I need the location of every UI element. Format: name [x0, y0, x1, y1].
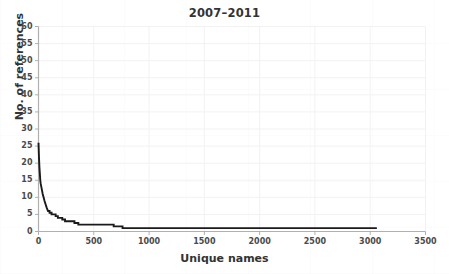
- y-tick-label: 0: [7, 227, 33, 236]
- y-tick-label: 15: [7, 175, 33, 184]
- x-tick-label: 2000: [240, 237, 280, 246]
- y-tick-label: 55: [7, 39, 33, 48]
- x-tick-label: 2500: [295, 237, 335, 246]
- y-tick-label: 45: [7, 73, 33, 82]
- gridlines: [39, 27, 426, 232]
- y-tick-label: 50: [7, 56, 33, 65]
- x-tick-label: 3500: [406, 237, 446, 246]
- x-tick-label: 1500: [184, 237, 224, 246]
- x-tick-label: 1000: [129, 237, 169, 246]
- y-tick-label: 30: [7, 124, 33, 133]
- plot-area: [0, 0, 449, 274]
- x-tick-label: 500: [74, 237, 114, 246]
- y-tick-label: 25: [7, 141, 33, 150]
- x-tick-label: 3000: [350, 237, 390, 246]
- y-tick-label: 40: [7, 90, 33, 99]
- data-series: [39, 143, 377, 228]
- x-tick-label: 0: [19, 237, 59, 246]
- y-tick-label: 20: [7, 158, 33, 167]
- y-tick-label: 35: [7, 107, 33, 116]
- series-line: [39, 143, 377, 228]
- chart-figure: 2007–2011 No. of references Unique names…: [0, 0, 449, 274]
- y-tick-label: 10: [7, 192, 33, 201]
- y-tick-label: 5: [7, 209, 33, 218]
- y-tick-label: 60: [7, 22, 33, 31]
